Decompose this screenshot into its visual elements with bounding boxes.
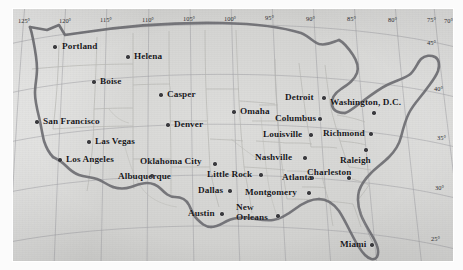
latitude-label-30: 30° — [435, 184, 444, 191]
city-dot-los-angeles[interactable] — [58, 158, 61, 161]
latitude-label-35: 35° — [437, 134, 446, 141]
city-label-washington-d-c[interactable]: Washington, D.C. — [330, 98, 401, 107]
city-dot-louisville[interactable] — [309, 133, 312, 136]
city-dot-montgomery[interactable] — [307, 191, 310, 194]
city-label-casper[interactable]: Casper — [167, 90, 196, 99]
longitude-label-90: 90° — [306, 15, 315, 22]
city-label-portland[interactable]: Portland — [62, 42, 98, 51]
map-canvas[interactable]: 125°120°115°110°105°100°95°90°85°80°75°7… — [13, 9, 453, 261]
longitude-label-125: 125° — [18, 17, 30, 24]
city-label-los-angeles[interactable]: Los Angeles — [66, 155, 114, 164]
longitude-label-85: 85° — [347, 15, 356, 22]
city-label-richmond[interactable]: Richmond — [323, 129, 365, 138]
city-dot-helena[interactable] — [126, 55, 129, 58]
longitude-label-95: 95° — [265, 14, 274, 21]
city-dot-omaha[interactable] — [232, 110, 235, 113]
city-label-little-rock[interactable]: Little Rock — [207, 170, 252, 179]
latitude-label-40: 40° — [434, 85, 443, 92]
city-dot-dallas[interactable] — [228, 189, 231, 192]
city-dot-casper[interactable] — [159, 93, 162, 96]
country-outline — [30, 23, 439, 259]
city-label-new-orleans[interactable]: New Orleans — [236, 203, 282, 222]
city-label-las-vegas[interactable]: Las Vegas — [95, 137, 135, 146]
latitude-label-25: 25° — [431, 235, 440, 242]
city-dot-detroit[interactable] — [322, 96, 325, 99]
latitude-label-45: 45° — [427, 39, 436, 46]
city-label-omaha[interactable]: Omaha — [240, 107, 270, 116]
city-label-austin[interactable]: Austin — [188, 209, 215, 218]
city-label-nashville[interactable]: Nashville — [255, 153, 292, 162]
longitude-label-110: 110° — [142, 16, 154, 23]
city-label-boise[interactable]: Boise — [100, 77, 121, 86]
city-label-miami[interactable]: Miami — [340, 240, 367, 249]
city-dot-boise[interactable] — [92, 80, 95, 83]
city-dot-raleigh[interactable] — [364, 148, 367, 151]
city-dot-columbus[interactable] — [318, 117, 321, 120]
map-figure: 125°120°115°110°105°100°95°90°85°80°75°7… — [0, 0, 463, 270]
city-label-columbus[interactable]: Columbus — [275, 114, 316, 123]
city-dot-richmond[interactable] — [369, 132, 372, 135]
city-label-montgomery[interactable]: Montgomery — [245, 188, 297, 197]
longitude-label-75: 75° — [427, 16, 436, 23]
longitude-label-100: 100° — [224, 15, 236, 22]
city-dot-las-vegas[interactable] — [87, 140, 90, 143]
city-dot-miami[interactable] — [370, 243, 373, 246]
city-dot-nashville[interactable] — [303, 156, 306, 159]
longitude-label-120: 120° — [59, 17, 71, 24]
city-dot-washington-d-c[interactable] — [372, 111, 375, 114]
city-label-albuquerque[interactable]: Albuquerque — [118, 172, 171, 181]
city-dot-oklahoma-city[interactable] — [213, 162, 216, 165]
city-dot-portland[interactable] — [53, 45, 56, 48]
city-label-detroit[interactable]: Detroit — [285, 93, 314, 102]
longitude-label-80: 80° — [388, 16, 397, 23]
city-dot-little-rock[interactable] — [259, 173, 262, 176]
city-dot-austin[interactable] — [220, 212, 223, 215]
city-label-raleigh[interactable]: Raleigh — [340, 156, 371, 165]
city-label-helena[interactable]: Helena — [134, 52, 162, 61]
city-label-louisville[interactable]: Louisville — [263, 130, 302, 139]
city-label-denver[interactable]: Denver — [174, 120, 203, 129]
city-dot-san-francisco[interactable] — [35, 120, 38, 123]
longitude-label-105: 105° — [183, 15, 195, 22]
longitude-label-70: 70° — [444, 17, 453, 24]
city-label-san-francisco[interactable]: San Francisco — [43, 117, 100, 126]
city-label-atlanta[interactable]: Atlanta — [282, 173, 312, 182]
longitude-label-115: 115° — [100, 16, 112, 23]
city-label-oklahoma-city[interactable]: Oklahoma City — [140, 157, 202, 166]
city-dot-denver[interactable] — [166, 123, 169, 126]
city-label-dallas[interactable]: Dallas — [198, 186, 223, 195]
